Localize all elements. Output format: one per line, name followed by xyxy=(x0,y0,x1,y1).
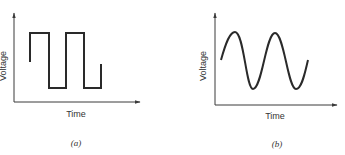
x-axis-label: Time xyxy=(265,111,285,121)
panel-caption: (b) xyxy=(272,139,283,149)
y-axis-label: Voltage xyxy=(0,51,8,81)
y-axis-label: Voltage xyxy=(198,51,208,81)
waveform-figure: Voltage Time (a) Voltage Time (b) xyxy=(0,0,345,155)
sine-wave-line xyxy=(221,32,308,89)
x-axis-label: Time xyxy=(66,109,86,119)
panel-b-sine-wave: Voltage Time (b) xyxy=(198,13,337,149)
square-wave-line xyxy=(30,33,101,88)
panel-caption: (a) xyxy=(71,138,82,148)
panel-a-square-wave: Voltage Time (a) xyxy=(0,13,140,148)
